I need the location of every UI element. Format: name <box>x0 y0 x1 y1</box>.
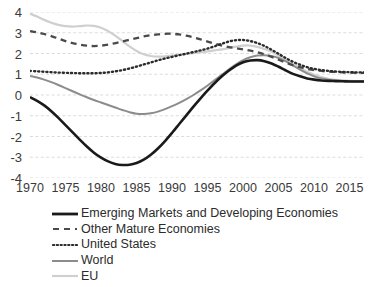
legend-item-world: World <box>52 253 364 269</box>
legend-label-world: World <box>81 254 113 267</box>
y-axis-tick-neg3: -3 <box>0 151 22 164</box>
legend-label-eu: EU <box>81 270 98 283</box>
solid-lightgray-line-swatch <box>52 271 78 281</box>
legend: Emerging Markets and Developing Economie… <box>52 206 364 284</box>
y-axis-tick-0: 0 <box>0 89 22 102</box>
legend-item-united-states: United States <box>52 237 364 253</box>
y-axis-tick-neg2: -2 <box>0 131 22 144</box>
legend-item-emerging-markets: Emerging Markets and Developing Economie… <box>52 206 364 222</box>
legend-item-eu: EU <box>52 268 364 284</box>
legend-label-emerging-markets: Emerging Markets and Developing Economie… <box>81 207 338 220</box>
y-axis-tick-neg1: -1 <box>0 110 22 123</box>
series-line <box>30 14 364 82</box>
x-axis-tick-2015: 2015 <box>328 182 372 195</box>
dotted-line-swatch <box>52 240 78 250</box>
solid-black-line-swatch <box>52 209 78 219</box>
dashed-gray-line-swatch <box>52 224 78 234</box>
y-axis-tick-1: 1 <box>0 68 22 81</box>
series-lines <box>30 14 364 165</box>
series-line <box>30 55 364 114</box>
y-axis-tick-4: 4 <box>0 6 22 19</box>
plot-area <box>30 12 364 178</box>
legend-item-other-mature: Other Mature Economies <box>52 222 364 238</box>
plot-svg <box>30 12 364 178</box>
y-axis-tick-2: 2 <box>0 48 22 61</box>
y-axis-tick-3: 3 <box>0 27 22 40</box>
legend-label-other-mature: Other Mature Economies <box>81 223 220 236</box>
line-chart: 4 3 2 1 0 -1 -2 -3 -4 1970 1975 1980 198… <box>0 0 372 287</box>
legend-label-united-states: United States <box>81 238 156 251</box>
solid-gray-line-swatch <box>52 256 78 266</box>
series-line <box>30 40 364 73</box>
